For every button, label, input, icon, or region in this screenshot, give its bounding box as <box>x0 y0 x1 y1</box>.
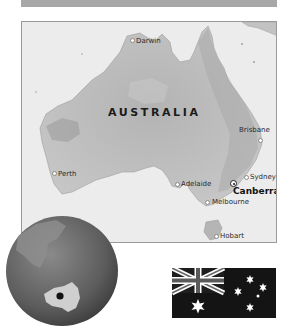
city-dot-melbourne[interactable] <box>205 200 210 205</box>
australia-map[interactable]: AUSTRALIA Darwin Brisbane Perth Sydney A… <box>21 21 277 243</box>
city-dot-adelaide[interactable] <box>175 182 180 187</box>
city-label-brisbane: Brisbane <box>239 126 270 134</box>
header-bar <box>21 0 277 7</box>
country-label: AUSTRALIA <box>108 106 201 119</box>
capital-label-canberra: Canberra <box>233 186 277 196</box>
city-label-hobart: Hobart <box>220 232 244 240</box>
city-label-adelaide: Adelaide <box>181 180 211 188</box>
city-dot-hobart[interactable] <box>214 234 219 239</box>
location-marker-icon <box>56 292 63 299</box>
city-dot-brisbane[interactable] <box>258 138 263 143</box>
city-label-sydney: Sydney <box>250 173 276 181</box>
city-dot-darwin[interactable] <box>130 38 135 43</box>
city-label-melbourne: Melbourne <box>212 198 249 206</box>
city-label-darwin: Darwin <box>136 37 161 45</box>
globe-locator-icon <box>6 216 118 326</box>
australian-flag-icon <box>172 268 276 318</box>
city-dot-sydney[interactable] <box>244 175 249 180</box>
city-dot-perth[interactable] <box>52 171 57 176</box>
city-label-perth: Perth <box>58 170 76 178</box>
